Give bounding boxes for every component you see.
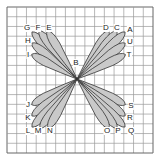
label-a: A <box>127 26 133 34</box>
label-l: L <box>25 127 30 135</box>
label-t: T <box>126 51 132 59</box>
label-b: B <box>73 59 79 67</box>
stitch-diagram: GFEHIDCAUTBJKLMNSROPQ <box>0 0 159 160</box>
label-r: R <box>127 114 134 122</box>
label-h: H <box>25 37 32 45</box>
label-q: Q <box>127 127 134 135</box>
label-n: N <box>47 127 54 135</box>
label-k: K <box>25 114 31 122</box>
label-o: O <box>103 127 110 135</box>
label-c: C <box>114 24 121 32</box>
label-j: J <box>26 101 31 109</box>
label-p: P <box>115 127 121 135</box>
label-e: E <box>46 24 52 32</box>
label-f: F <box>35 24 41 32</box>
label-u: U <box>127 38 134 46</box>
label-s: S <box>128 102 134 110</box>
label-g: G <box>23 24 30 32</box>
label-d: D <box>103 24 110 32</box>
label-i: I <box>26 51 29 59</box>
label-m: M <box>34 127 42 135</box>
